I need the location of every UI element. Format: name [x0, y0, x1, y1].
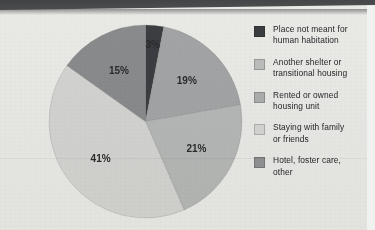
legend-label-line-2: or friends: [273, 134, 344, 145]
legend-item-label: Place not meant forhuman habitation: [273, 24, 348, 47]
pie-chart: 3%19%21%41%15%: [0, 0, 250, 230]
pie-chart-svg: 3%19%21%41%15%: [0, 0, 250, 230]
legend-item-label: Staying with familyor friends: [273, 122, 344, 145]
legend-label-line-1: Staying with family: [273, 122, 344, 133]
legend-label-line-1: Rented or owned: [273, 90, 338, 101]
legend-label-line-2: housing unit: [273, 101, 338, 112]
legend-color-swatch: [254, 92, 265, 103]
legend-label-line-2: other: [273, 167, 341, 178]
chart-legend: Place not meant forhuman habitationAnoth…: [254, 24, 367, 188]
legend-label-line-1: Another shelter or: [273, 57, 347, 68]
legend-label-line-1: Place not meant for: [273, 24, 348, 35]
legend-color-swatch: [254, 59, 265, 70]
legend-item[interactable]: Staying with familyor friends: [254, 122, 367, 145]
legend-item-label: Rented or ownedhousing unit: [273, 90, 338, 113]
pie-slice-label: 3%: [146, 39, 161, 50]
pie-slice-label: 21%: [186, 143, 206, 154]
legend-label-line-2: transitional housing: [273, 68, 347, 79]
pie-slice-label: 19%: [177, 75, 197, 86]
legend-item-label: Another shelter ortransitional housing: [273, 57, 347, 80]
legend-label-line-1: Hotel, foster care,: [273, 155, 341, 166]
legend-item[interactable]: Another shelter ortransitional housing: [254, 57, 367, 80]
legend-item[interactable]: Place not meant forhuman habitation: [254, 24, 367, 47]
page-edge-band-fade: [0, 9, 367, 15]
legend-item[interactable]: Rented or ownedhousing unit: [254, 90, 367, 113]
legend-color-swatch: [254, 124, 265, 135]
pie-slice-group: [49, 25, 242, 218]
scan-artifact-line: [0, 158, 367, 159]
legend-label-line-2: human habitation: [273, 35, 348, 46]
pie-slice-label: 15%: [109, 65, 129, 76]
legend-color-swatch: [254, 26, 265, 37]
